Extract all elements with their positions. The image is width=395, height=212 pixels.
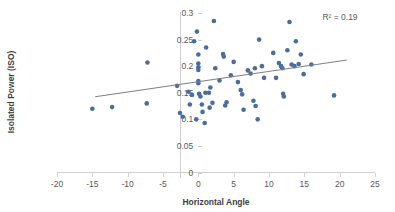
- y-tick-label: 0: [189, 168, 194, 178]
- x-tick-label: -5: [159, 179, 167, 189]
- y-axis-title: Isolated Power (ISO): [6, 51, 16, 134]
- data-point: [253, 66, 258, 71]
- data-point: [110, 105, 115, 110]
- data-point: [260, 64, 265, 69]
- data-point: [196, 52, 201, 57]
- data-point: [241, 107, 246, 112]
- data-point: [251, 98, 256, 103]
- data-point: [90, 106, 95, 111]
- x-tick-marks: [58, 173, 376, 177]
- data-point: [294, 39, 299, 44]
- y-tick-label: 0.3: [182, 8, 194, 18]
- data-point: [212, 19, 217, 24]
- data-point: [200, 102, 205, 107]
- trendline-group: [95, 60, 347, 97]
- data-point: [196, 68, 201, 73]
- y-tick-label: 0.25: [177, 35, 194, 45]
- x-tick-label: 5: [231, 179, 236, 189]
- plot-area: -20-15-10-50510152025 00.050.10.150.20.2…: [0, 0, 395, 212]
- x-tick-label: 10: [264, 179, 274, 189]
- data-point: [238, 88, 243, 93]
- scatter-chart: -20-15-10-50510152025 00.050.10.150.20.2…: [0, 0, 395, 212]
- data-point: [262, 76, 267, 81]
- data-point: [224, 100, 229, 105]
- data-point: [190, 93, 195, 98]
- data-point: [255, 117, 260, 122]
- data-point: [213, 66, 218, 71]
- data-point: [195, 29, 200, 34]
- x-tick-label: -20: [51, 179, 64, 189]
- x-tick-label: 0: [196, 179, 201, 189]
- data-point: [145, 60, 150, 65]
- data-point: [274, 76, 279, 81]
- data-point: [192, 39, 197, 44]
- y-tick-label: 0.05: [177, 141, 194, 151]
- data-point: [202, 121, 207, 126]
- data-point: [285, 48, 290, 53]
- data-point: [240, 92, 245, 97]
- y-tick-label: 0.2: [182, 61, 194, 71]
- y-tick-labels: 00.050.10.150.20.250.3: [177, 8, 194, 178]
- data-point: [180, 114, 185, 119]
- data-points-group: [90, 19, 336, 126]
- data-point: [207, 105, 212, 110]
- r-squared-annotation: R² = 0.19: [322, 12, 357, 22]
- data-point: [236, 80, 241, 85]
- data-point: [253, 104, 258, 109]
- x-tick-label: 15: [300, 179, 310, 189]
- data-point: [204, 45, 209, 50]
- data-point: [194, 117, 199, 122]
- x-tick-label: -10: [122, 179, 135, 189]
- data-point: [332, 93, 337, 98]
- x-tick-label: 20: [335, 179, 345, 189]
- data-point: [207, 90, 212, 95]
- data-point: [271, 51, 276, 56]
- data-point: [299, 52, 304, 57]
- x-axis-title: Horizontal Angle: [182, 197, 249, 207]
- data-point: [200, 110, 205, 115]
- data-point: [221, 54, 226, 59]
- data-point: [301, 72, 306, 77]
- data-point: [282, 94, 287, 99]
- x-tick-label: 25: [370, 179, 380, 189]
- trend-line: [95, 60, 347, 97]
- data-point: [296, 62, 301, 67]
- data-point: [231, 60, 236, 65]
- data-point: [210, 101, 215, 106]
- data-point: [188, 102, 193, 107]
- x-tick-label: -15: [86, 179, 99, 189]
- data-point: [178, 111, 183, 116]
- x-tick-labels: -20-15-10-50510152025: [51, 179, 380, 189]
- data-point: [198, 94, 203, 99]
- data-point: [144, 101, 149, 106]
- data-point: [208, 85, 213, 90]
- data-point: [257, 37, 262, 42]
- data-point: [186, 89, 191, 94]
- data-point: [287, 20, 292, 25]
